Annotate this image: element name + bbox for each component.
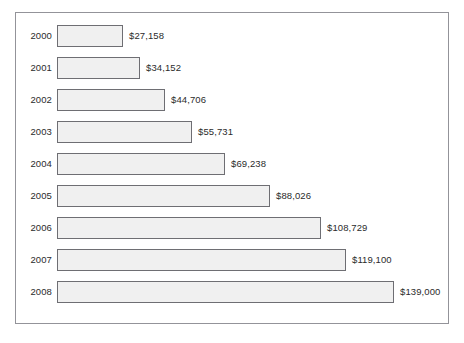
category-label: 2005 <box>16 185 52 207</box>
bar-row: 2002$44,706 <box>16 89 448 111</box>
bar-row: 2003$55,731 <box>16 121 448 143</box>
bar-row: 2001$34,152 <box>16 57 448 79</box>
bar <box>57 185 270 207</box>
category-label: 2008 <box>16 281 52 303</box>
chart-frame: 2000$27,1582001$34,1522002$44,7062003$55… <box>15 12 449 324</box>
category-label: 2006 <box>16 217 52 239</box>
bar-value-label: $88,026 <box>276 185 311 207</box>
bar-row: 2007$119,100 <box>16 249 448 271</box>
bar <box>57 249 346 271</box>
category-label: 2007 <box>16 249 52 271</box>
bar-value-label: $34,152 <box>146 57 181 79</box>
category-label: 2001 <box>16 57 52 79</box>
category-label: 2002 <box>16 89 52 111</box>
bar <box>57 121 192 143</box>
bar <box>57 281 394 303</box>
plot-area: 2000$27,1582001$34,1522002$44,7062003$55… <box>16 13 448 323</box>
bar-value-label: $44,706 <box>171 89 206 111</box>
bar-value-label: $27,158 <box>129 25 164 47</box>
bar-row: 2000$27,158 <box>16 25 448 47</box>
bar-value-label: $139,000 <box>400 281 440 303</box>
bar-value-label: $55,731 <box>198 121 233 143</box>
bar-row: 2004$69,238 <box>16 153 448 175</box>
bar-row: 2006$108,729 <box>16 217 448 239</box>
bar <box>57 89 165 111</box>
bar <box>57 57 140 79</box>
bar-value-label: $119,100 <box>352 249 392 271</box>
bar-value-label: $69,238 <box>231 153 266 175</box>
bar-row: 2008$139,000 <box>16 281 448 303</box>
category-label: 2000 <box>16 25 52 47</box>
bar-value-label: $108,729 <box>327 217 367 239</box>
bar <box>57 153 225 175</box>
bar <box>57 217 321 239</box>
category-label: 2003 <box>16 121 52 143</box>
bar <box>57 25 123 47</box>
bar-row: 2005$88,026 <box>16 185 448 207</box>
category-label: 2004 <box>16 153 52 175</box>
